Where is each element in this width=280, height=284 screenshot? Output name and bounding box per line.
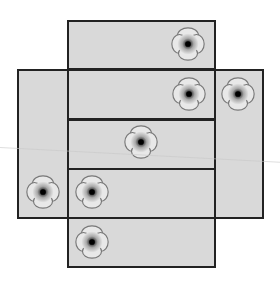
poppy-flower-icon [219, 75, 257, 113]
poppy-flower-icon [73, 223, 111, 261]
poppy-flower-icon [169, 25, 207, 63]
poppy-flower-icon [73, 173, 111, 211]
poppy-flower-icon [170, 75, 208, 113]
poppy-flower-icon [24, 173, 62, 211]
